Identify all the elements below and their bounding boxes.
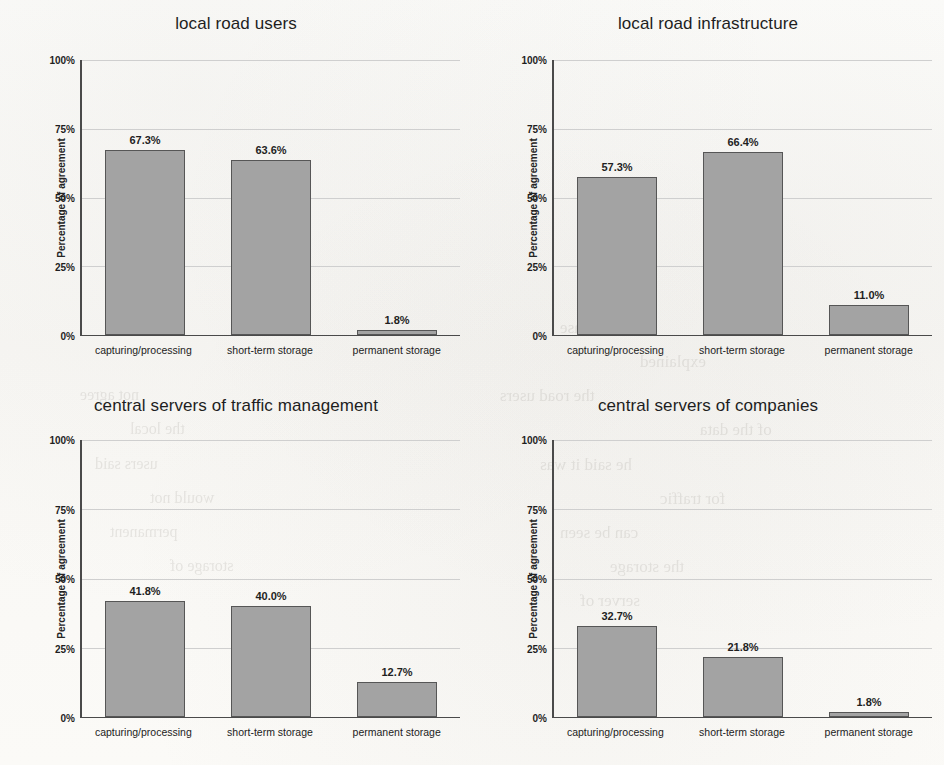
bar[interactable]: 57.3% <box>577 177 658 335</box>
x-axis-category-label: permanent storage <box>333 344 460 356</box>
chart-title: central servers of companies <box>472 396 944 416</box>
bar[interactable]: 32.7% <box>577 626 658 717</box>
bar-value-label: 57.3% <box>601 161 632 173</box>
y-axis-tick-label: 0% <box>61 331 75 342</box>
y-axis-tick-label: 25% <box>527 262 547 273</box>
bar-slot: 66.4% <box>680 60 806 335</box>
x-axis-category-label: short-term storage <box>679 726 806 738</box>
bar-slot: 57.3% <box>554 60 680 335</box>
x-axis-category-label: short-term storage <box>679 344 806 356</box>
y-axis-tick-label: 75% <box>527 504 547 515</box>
plot-area: 57.3%66.4%11.0% <box>552 60 932 336</box>
y-axis-tick-label: 25% <box>55 262 75 273</box>
y-axis-ticks: 100%75%50%25%0% <box>36 60 80 336</box>
bar[interactable]: 1.8% <box>357 330 438 335</box>
x-axis-category-label: capturing/processing <box>80 726 207 738</box>
x-axis-category-label: capturing/processing <box>80 344 207 356</box>
plot-area-wrapper: 100%75%50%25%0%32.7%21.8%1.8% <box>508 440 932 718</box>
charts-grid: local road usersPercentage of agreement1… <box>0 0 944 765</box>
bars-container: 67.3%63.6%1.8% <box>82 60 460 335</box>
bar[interactable]: 63.6% <box>231 160 312 335</box>
plot-area: 67.3%63.6%1.8% <box>80 60 460 336</box>
x-axis-labels: capturing/processingshort-term storagepe… <box>552 726 932 738</box>
x-axis-category-label: short-term storage <box>207 344 334 356</box>
bar-value-label: 21.8% <box>727 641 758 653</box>
x-axis-category-label: permanent storage <box>333 726 460 738</box>
bar-slot: 41.8% <box>82 440 208 717</box>
chart-panel: local road infrastructurePercentage of a… <box>472 0 944 382</box>
bar-slot: 1.8% <box>806 440 932 717</box>
bar[interactable]: 12.7% <box>357 682 438 717</box>
y-axis-tick-label: 75% <box>527 124 547 135</box>
bar-value-label: 11.0% <box>854 289 885 301</box>
bar-slot: 21.8% <box>680 440 806 717</box>
x-axis-labels: capturing/processingshort-term storagepe… <box>80 726 460 738</box>
plot-area: 41.8%40.0%12.7% <box>80 440 460 718</box>
bar-slot: 11.0% <box>806 60 932 335</box>
x-axis-category-label: capturing/processing <box>552 726 679 738</box>
chart-panel: central servers of traffic managementPer… <box>0 382 472 765</box>
bar-value-label: 32.7% <box>601 610 632 622</box>
y-axis-tick-label: 25% <box>55 643 75 654</box>
x-axis-labels: capturing/processingshort-term storagepe… <box>552 344 932 356</box>
y-axis-tick-label: 0% <box>61 713 75 724</box>
bar[interactable]: 40.0% <box>231 606 312 717</box>
bar-value-label: 1.8% <box>384 314 409 326</box>
chart-panel: local road usersPercentage of agreement1… <box>0 0 472 382</box>
chart-panel: central servers of companiesPercentage o… <box>472 382 944 765</box>
bar[interactable]: 41.8% <box>105 601 186 717</box>
y-axis-tick-label: 100% <box>521 55 547 66</box>
bar-value-label: 67.3% <box>129 134 160 146</box>
plot-area-wrapper: 100%75%50%25%0%57.3%66.4%11.0% <box>508 60 932 336</box>
y-axis-ticks: 100%75%50%25%0% <box>508 60 552 336</box>
y-axis-tick-label: 50% <box>55 193 75 204</box>
y-axis-tick-label: 0% <box>533 713 547 724</box>
y-axis-tick-label: 50% <box>527 574 547 585</box>
bar-value-label: 12.7% <box>381 666 412 678</box>
plot-area: 32.7%21.8%1.8% <box>552 440 932 718</box>
y-axis-tick-label: 100% <box>49 55 75 66</box>
bar-value-label: 63.6% <box>255 144 286 156</box>
bar[interactable]: 67.3% <box>105 150 186 335</box>
chart-title: local road users <box>0 14 472 34</box>
bar-slot: 67.3% <box>82 60 208 335</box>
bar-slot: 32.7% <box>554 440 680 717</box>
y-axis-tick-label: 25% <box>527 643 547 654</box>
x-axis-category-label: permanent storage <box>805 344 932 356</box>
bar[interactable]: 11.0% <box>829 305 910 335</box>
bars-container: 32.7%21.8%1.8% <box>554 440 932 717</box>
bar[interactable]: 66.4% <box>703 152 784 335</box>
bars-container: 57.3%66.4%11.0% <box>554 60 932 335</box>
plot-area-wrapper: 100%75%50%25%0%41.8%40.0%12.7% <box>36 440 460 718</box>
bar-value-label: 41.8% <box>129 585 160 597</box>
y-axis-tick-label: 50% <box>527 193 547 204</box>
y-axis-tick-label: 0% <box>533 331 547 342</box>
y-axis-tick-label: 50% <box>55 574 75 585</box>
bar-value-label: 66.4% <box>727 136 758 148</box>
bar[interactable]: 1.8% <box>829 712 910 717</box>
bar-slot: 40.0% <box>208 440 334 717</box>
y-axis-tick-label: 100% <box>49 435 75 446</box>
y-axis-tick-label: 75% <box>55 124 75 135</box>
x-axis-category-label: short-term storage <box>207 726 334 738</box>
bars-container: 41.8%40.0%12.7% <box>82 440 460 717</box>
bar-value-label: 40.0% <box>255 590 286 602</box>
chart-title: central servers of traffic management <box>0 396 472 416</box>
bar-value-label: 1.8% <box>856 696 881 708</box>
y-axis-tick-label: 100% <box>521 435 547 446</box>
x-axis-category-label: capturing/processing <box>552 344 679 356</box>
bar-slot: 12.7% <box>334 440 460 717</box>
y-axis-ticks: 100%75%50%25%0% <box>508 440 552 718</box>
x-axis-category-label: permanent storage <box>805 726 932 738</box>
y-axis-ticks: 100%75%50%25%0% <box>36 440 80 718</box>
x-axis-labels: capturing/processingshort-term storagepe… <box>80 344 460 356</box>
y-axis-tick-label: 75% <box>55 504 75 515</box>
bar[interactable]: 21.8% <box>703 657 784 717</box>
chart-title: local road infrastructure <box>472 14 944 34</box>
bar-slot: 63.6% <box>208 60 334 335</box>
plot-area-wrapper: 100%75%50%25%0%67.3%63.6%1.8% <box>36 60 460 336</box>
bar-slot: 1.8% <box>334 60 460 335</box>
